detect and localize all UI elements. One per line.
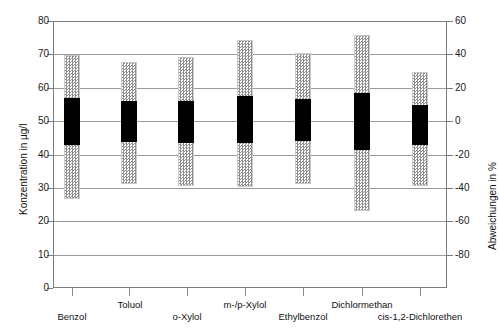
xtick-mark-4 (245, 288, 246, 296)
y2tick-mark-m80 (447, 255, 453, 256)
ytick-label-30: 30 (9, 183, 49, 193)
ytick-label-20: 20 (9, 216, 49, 226)
y-axis-title: Konzentration in µg/l (18, 124, 29, 215)
bar-range-ethylbenzol (295, 53, 311, 184)
bar-range-toluol (121, 62, 137, 184)
y2-axis-title: Abweichungen in % (487, 162, 498, 250)
y2tick-label-m80: -80 (455, 250, 495, 260)
ytick-label-70: 70 (9, 49, 49, 59)
bar-core-ethylbenzol (295, 99, 311, 141)
bar-core-benzol (64, 98, 80, 145)
ytick-label-80: 80 (9, 16, 49, 26)
xtick-mark-5 (303, 288, 304, 296)
y2tick-label-20: 20 (455, 83, 495, 93)
bar-range-o-xylol (178, 57, 194, 186)
bar-core-m-p-xylol (237, 96, 253, 143)
xtick-label-cis-1-2-dichlorethen: cis-1,2-Dichlorethen (359, 311, 481, 322)
ytick-label-50: 50 (9, 116, 49, 126)
chart-container: 80 70 60 50 40 30 20 10 0 60 40 20 0 -20… (0, 0, 500, 334)
xtick-label-m-p-xylol: m-/p-Xylol (210, 299, 280, 310)
y2tick-label-m20: -20 (455, 150, 495, 160)
ytick-label-10: 10 (9, 250, 49, 260)
xtick-mark-6 (362, 288, 363, 296)
y2tick-mark-20 (447, 88, 453, 89)
y2tick-mark-40 (447, 54, 453, 55)
plot-area (53, 21, 447, 288)
bar-range-benzol (64, 55, 80, 199)
bar-range-m-p-xylol (237, 40, 253, 187)
gridline-20 (54, 221, 446, 222)
y2tick-label-0: 0 (455, 116, 495, 126)
bar-range-dichlormethan (354, 35, 370, 210)
xtick-label-o-xylol: o-Xylol (152, 311, 222, 322)
xtick-mark-2 (129, 288, 130, 296)
xtick-mark-3 (187, 288, 188, 296)
y2tick-mark-60 (447, 21, 453, 22)
y2tick-mark-m40 (447, 188, 453, 189)
ytick-label-40: 40 (9, 150, 49, 160)
xtick-label-toluol: Toluol (95, 299, 165, 310)
bar-core-cis-1-2-dichlorethen (412, 105, 428, 145)
ytick-label-60: 60 (9, 83, 49, 93)
bar-core-dichlormethan (354, 93, 370, 150)
y2tick-mark-m20 (447, 155, 453, 156)
xtick-label-ethylbenzol: Ethylbenzol (268, 311, 338, 322)
y2tick-mark-m60 (447, 221, 453, 222)
y2tick-mark-0 (447, 121, 453, 122)
y2tick-label-60: 60 (455, 16, 495, 26)
bar-core-o-xylol (178, 101, 194, 144)
bar-range-cis-1-2-dichlorethen (412, 72, 428, 186)
xtick-mark-7 (420, 288, 421, 296)
xtick-label-dichlormethan: Dichlormethan (319, 299, 405, 310)
xtick-mark-1 (72, 288, 73, 296)
ytick-label-0: 0 (9, 283, 49, 293)
gridline-10 (54, 255, 446, 256)
y2tick-label-40: 40 (455, 49, 495, 59)
gridline-30 (54, 188, 446, 189)
bar-core-toluol (121, 101, 137, 142)
xtick-label-benzol: Benzol (37, 311, 107, 322)
